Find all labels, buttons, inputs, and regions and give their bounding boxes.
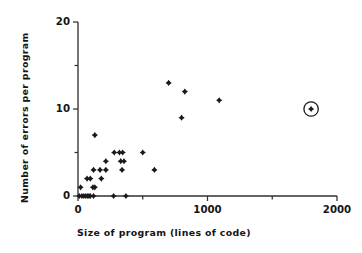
- data-point: [120, 149, 126, 155]
- data-point: [179, 115, 185, 121]
- y-tick-marks: [73, 22, 78, 196]
- data-point: [87, 176, 93, 182]
- x-tick-marks: [78, 196, 337, 201]
- data-point: [182, 89, 188, 95]
- data-point: [98, 176, 104, 182]
- data-point: [90, 167, 96, 173]
- y-tick-label: 0: [63, 190, 70, 201]
- axes-group: [73, 22, 337, 201]
- x-tick-label: 2000: [323, 204, 351, 215]
- data-point: [119, 167, 125, 173]
- x-tick-label: 0: [74, 204, 81, 215]
- plot-area: [0, 0, 362, 253]
- data-point: [111, 193, 117, 199]
- data-point: [97, 167, 103, 173]
- outlier-data-point: [308, 106, 314, 112]
- x-tick-label: 1000: [193, 204, 221, 215]
- data-point: [92, 132, 98, 138]
- data-point: [151, 167, 157, 173]
- data-point-markers: [76, 80, 222, 199]
- data-point: [123, 193, 129, 199]
- scatter-plot-figure: Number of errors per program Size of pro…: [0, 0, 362, 253]
- data-point: [166, 80, 172, 86]
- data-point: [140, 149, 146, 155]
- data-point: [103, 158, 109, 164]
- data-point: [103, 167, 109, 173]
- data-point: [90, 193, 96, 199]
- data-point: [216, 97, 222, 103]
- data-point: [121, 158, 127, 164]
- y-tick-label: 10: [56, 103, 70, 114]
- highlighted-point-markers: [304, 102, 318, 116]
- y-tick-label: 20: [56, 16, 70, 27]
